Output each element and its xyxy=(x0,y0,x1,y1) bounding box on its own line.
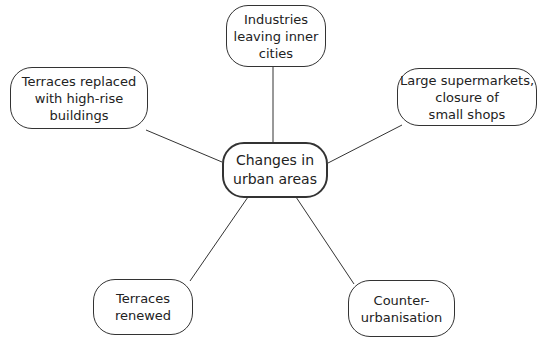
node-label: Terraces renewed xyxy=(115,290,171,324)
central-topic-label: Changes in urban areas xyxy=(233,151,317,189)
link-counter-urbanisation xyxy=(296,197,354,284)
node-terraces-replaced: Terraces replaced with high-rise buildin… xyxy=(10,67,148,129)
node-label: Counter- urbanisation xyxy=(361,292,442,326)
node-label: Terraces replaced with high-rise buildin… xyxy=(22,73,137,124)
node-label: Large supermarkets, closure of small sho… xyxy=(400,72,534,123)
link-terraces-replaced xyxy=(146,130,222,162)
node-industries: Industries leaving inner cities xyxy=(226,5,326,67)
link-terraces-renewed xyxy=(190,197,248,281)
node-label: Industries leaving inner cities xyxy=(234,11,319,62)
central-topic-node: Changes in urban areas xyxy=(222,142,328,198)
node-terraces-renewed: Terraces renewed xyxy=(93,279,193,335)
link-supermarkets xyxy=(328,125,402,163)
node-counter-urbanisation: Counter- urbanisation xyxy=(348,280,455,337)
node-supermarkets: Large supermarkets, closure of small sho… xyxy=(397,68,537,126)
